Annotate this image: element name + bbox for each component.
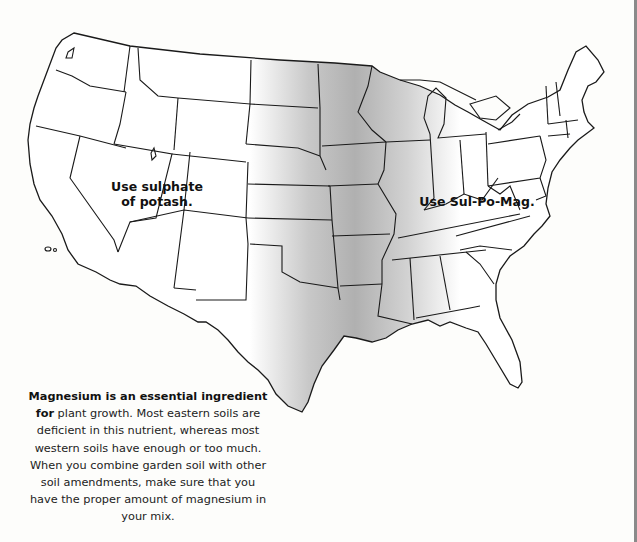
east-label-line-1: Use Sul-Po-Mag. [412, 194, 542, 209]
west-label-line-1: Use sulphate [92, 179, 222, 194]
caption: Magnesium is an essential ingredient for… [28, 388, 268, 526]
region-label-east: Use Sul-Po-Mag. [412, 194, 542, 209]
page: Use sulphate of potash. Use Sul-Po-Mag. … [0, 0, 637, 542]
caption-body: plant growth. Most eastern soils are def… [30, 407, 266, 523]
west-label-line-2: of potash. [92, 194, 222, 209]
region-label-west: Use sulphate of potash. [92, 179, 222, 209]
shaded-central-band [250, 50, 460, 430]
